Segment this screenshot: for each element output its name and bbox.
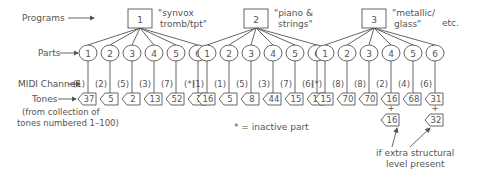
- program-name: tromb/tpt": [160, 19, 207, 29]
- midi-channel: (*): [311, 79, 322, 89]
- arrow-icon: [392, 128, 397, 147]
- program-name: "synvox: [158, 8, 194, 18]
- tone-number: 70: [343, 94, 354, 104]
- midi-channel: (7): [280, 79, 292, 89]
- tone-number: 15: [291, 94, 302, 104]
- midi-channel: (1): [192, 79, 204, 89]
- program-name: "metallic/: [392, 8, 436, 18]
- part-number: 1: [85, 49, 91, 59]
- extra-tone-number: 32: [431, 115, 442, 125]
- midi-channel: (5): [236, 79, 248, 89]
- part-number: 4: [388, 49, 394, 59]
- part-number: 2: [226, 49, 232, 59]
- program-group-1: 1"synvoxtromb/tpt"1(1)372(2)53(5)24(3)13…: [73, 8, 207, 105]
- part-number: 1: [322, 49, 328, 59]
- part-number: 3: [248, 49, 254, 59]
- svg-text:Programs: Programs: [22, 13, 65, 23]
- midi-channel: (3): [139, 79, 151, 89]
- midi-channel: (3): [258, 79, 270, 89]
- row-label-programs: Programs: [22, 13, 94, 23]
- tone-number: 52: [172, 94, 183, 104]
- program-number: 3: [371, 15, 377, 25]
- part-number: 5: [173, 49, 179, 59]
- tone-number: 5: [108, 94, 113, 104]
- program-number: 1: [137, 15, 143, 25]
- program-name: "piano &: [274, 8, 313, 18]
- plus-sign: +: [431, 103, 438, 113]
- part-number: 6: [432, 49, 438, 59]
- svg-text:(from collection of: (from collection of: [22, 107, 100, 117]
- part-number: 1: [204, 49, 210, 59]
- midi-channel: (6): [420, 79, 432, 89]
- plus-sign: +: [387, 103, 394, 113]
- extra-level-annotation: if extra structural level present: [376, 128, 454, 169]
- tone-number: 5: [227, 94, 232, 104]
- part-number: 5: [292, 49, 298, 59]
- tone-number: 70: [365, 94, 376, 104]
- midi-channel: (2): [95, 79, 107, 89]
- tone-number: 15: [321, 94, 332, 104]
- program-name: glass": [394, 19, 421, 29]
- etc-label: etc.: [442, 18, 459, 28]
- tone-number: 44: [269, 94, 280, 104]
- svg-text:Tones: Tones: [31, 94, 58, 104]
- extra-tone-number: 16: [387, 115, 398, 125]
- midi-channel: (1): [214, 79, 226, 89]
- tone-number: 8: [249, 94, 254, 104]
- tone-number: 16: [203, 94, 214, 104]
- svg-text:Parts: Parts: [38, 48, 61, 58]
- row-label-parts: Parts: [38, 48, 78, 58]
- part-number: 4: [270, 49, 276, 59]
- midi-channel: (2): [376, 79, 388, 89]
- midi-channel: (8): [332, 79, 344, 89]
- arrow-icon: [410, 128, 430, 147]
- program-group-2: 2"piano &strings"1(1)162(1)53(5)84(3)445…: [192, 8, 326, 105]
- midi-channel: (5): [117, 79, 129, 89]
- part-number: 2: [344, 49, 350, 59]
- row-label-midi-channel: MIDI Channel: [18, 79, 80, 89]
- part-number: 4: [151, 49, 157, 59]
- tone-number: 37: [84, 94, 95, 104]
- tone-number: 13: [150, 94, 161, 104]
- inactive-part-legend: * = inactive part: [234, 122, 309, 132]
- part-number: 3: [366, 49, 372, 59]
- part-number: 5: [410, 49, 416, 59]
- midi-program-structure-diagram: Programs Parts MIDI Channel Tones (from …: [0, 0, 478, 181]
- midi-channel: (1): [73, 79, 85, 89]
- midi-channel: (4): [398, 79, 410, 89]
- midi-channel: (7): [161, 79, 173, 89]
- program-name: strings": [278, 19, 313, 29]
- svg-text:tones numbered 1–100): tones numbered 1–100): [17, 118, 119, 128]
- midi-channel: (8): [354, 79, 366, 89]
- tone-number: 68: [409, 94, 420, 104]
- part-number: 3: [129, 49, 135, 59]
- program-number: 2: [253, 15, 259, 25]
- part-number: 2: [107, 49, 113, 59]
- svg-text:level present: level present: [386, 159, 445, 169]
- tone-number: 2: [130, 94, 135, 104]
- svg-text:if extra structural: if extra structural: [376, 148, 454, 158]
- program-group-3: 3"metallic/glass"1(*)152(8)703(8)704(2)1…: [311, 8, 444, 126]
